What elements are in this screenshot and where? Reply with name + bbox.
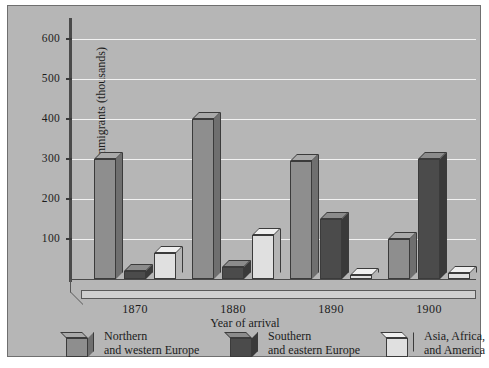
bar-face <box>94 159 116 279</box>
legend-label-line1: Southern <box>268 329 360 343</box>
x-tick-label-1880: 1880 <box>203 302 263 317</box>
gridline <box>70 79 476 80</box>
bar-1870-series-2 <box>124 271 146 279</box>
legend-swatch-face <box>386 338 408 357</box>
legend-label-3: Asia, Africa,and America <box>424 329 485 357</box>
y-tick-mark <box>66 238 72 240</box>
legend-swatch-side <box>408 332 414 357</box>
y-tick-label: 200 <box>20 192 60 204</box>
legend-label-line1: Northern <box>104 329 199 343</box>
bar-face <box>124 271 146 279</box>
y-tick-mark <box>66 38 72 40</box>
legend-swatch-top <box>224 332 252 338</box>
bar-face <box>252 235 274 279</box>
bar-face <box>290 161 312 279</box>
legend-swatch-face <box>66 338 88 357</box>
bar-side <box>342 212 349 279</box>
y-tick-label: 500 <box>20 72 60 84</box>
legend-label-line2: and western Europe <box>104 343 199 357</box>
floor-slab <box>81 290 476 299</box>
y-tick-label: 600 <box>20 32 60 44</box>
series-2-swatch <box>230 333 252 353</box>
bar-1870-series-1 <box>94 159 116 279</box>
legend-label-line2: and eastern Europe <box>268 343 360 357</box>
chart-figure: Number of immigrants (thousands) Year of… <box>7 5 481 357</box>
bar-face <box>222 267 244 279</box>
bar-1890-series-1 <box>290 161 312 279</box>
bar-side <box>214 112 221 279</box>
bar-side <box>440 152 447 279</box>
x-tick-label-1900: 1900 <box>399 302 459 317</box>
bar-1880-series-1 <box>192 119 214 279</box>
gridline <box>70 159 476 160</box>
legend-swatch-side <box>252 332 258 357</box>
bar-1870-series-3 <box>154 253 176 279</box>
y-tick-label: 400 <box>20 112 60 124</box>
y-tick-label: 300 <box>20 152 60 164</box>
bar-side <box>116 152 123 279</box>
bar-face <box>418 159 440 279</box>
bar-1880-series-3 <box>252 235 274 279</box>
legend-label-1: Northernand western Europe <box>104 329 199 357</box>
bar-1890-series-2 <box>320 219 342 279</box>
plot-area: Number of immigrants (thousands) <box>70 20 476 279</box>
bar-1900-series-2 <box>418 159 440 279</box>
bar-side <box>312 154 319 279</box>
legend-swatch-top <box>60 332 88 338</box>
legend-swatch-top <box>380 332 408 338</box>
chart-floor <box>70 279 476 298</box>
legend-swatch-side <box>88 332 94 357</box>
bar-side <box>410 232 417 279</box>
chart-legend: Northernand western EuropeSouthernand ea… <box>8 328 482 358</box>
series-3-swatch <box>386 333 408 353</box>
legend-label-line2: and America <box>424 343 485 357</box>
bar-face <box>154 253 176 279</box>
series-1-swatch <box>66 333 88 353</box>
legend-swatch-face <box>230 338 252 357</box>
y-tick-mark <box>66 118 72 120</box>
bar-face <box>320 219 342 279</box>
bar-face <box>388 239 410 279</box>
bar-1900-series-1 <box>388 239 410 279</box>
bar-side <box>274 228 281 279</box>
y-tick-mark <box>66 158 72 160</box>
x-tick-label-1890: 1890 <box>301 302 361 317</box>
x-tick-label-1870: 1870 <box>105 302 165 317</box>
gridline <box>70 39 476 40</box>
bar-face <box>192 119 214 279</box>
gridline <box>70 199 476 200</box>
y-tick-label: 100 <box>20 232 60 244</box>
legend-label-line1: Asia, Africa, <box>424 329 485 343</box>
bar-1880-series-2 <box>222 267 244 279</box>
gridline <box>70 119 476 120</box>
legend-label-2: Southernand eastern Europe <box>268 329 360 357</box>
y-tick-mark <box>66 78 72 80</box>
y-tick-mark <box>66 198 72 200</box>
